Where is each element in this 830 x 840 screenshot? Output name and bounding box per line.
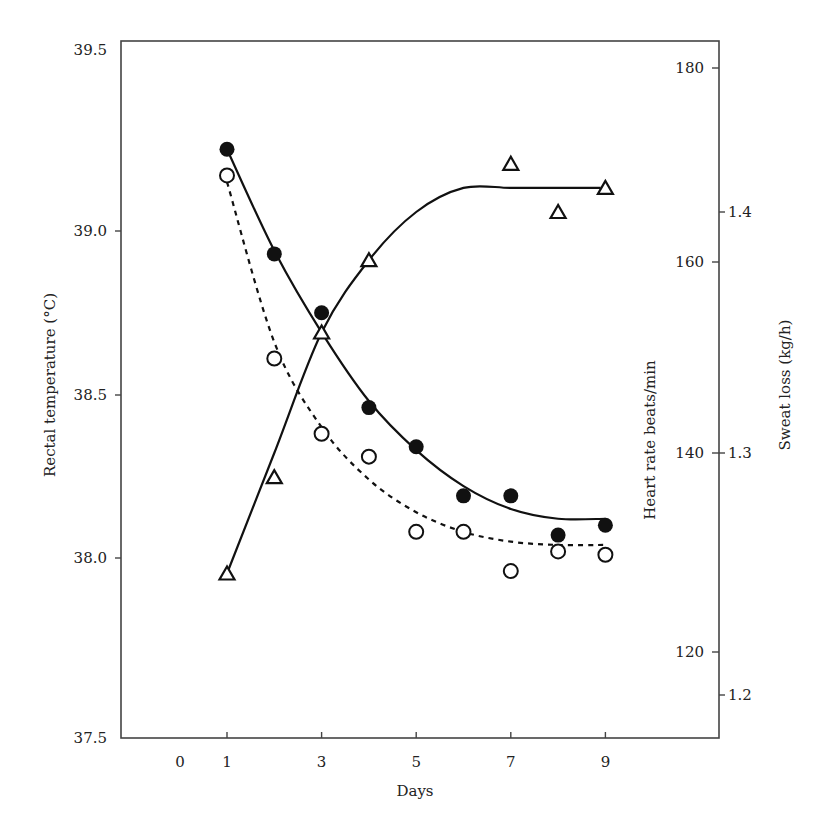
y-sweat-loss-tick-label: 1.3 bbox=[728, 444, 752, 462]
open-circle-marker bbox=[598, 548, 612, 562]
y-axis-right-heart-rate-title: Heart rate beats/min bbox=[641, 360, 659, 520]
filled-circle-marker bbox=[361, 400, 376, 415]
open-circle-marker bbox=[409, 525, 423, 539]
x-tick-label: 5 bbox=[411, 753, 421, 771]
x-tick-label: 3 bbox=[317, 753, 327, 771]
open-triangle-marker bbox=[267, 470, 282, 483]
filled-circle-fit-curve bbox=[227, 149, 605, 519]
y-left-tick-label: 37.5 bbox=[74, 729, 107, 747]
y-sweat-loss-tick-label: 1.4 bbox=[728, 203, 752, 221]
open-triangle-marker bbox=[551, 205, 566, 218]
y-left-tick-label: 39.5 bbox=[74, 41, 107, 59]
x-tick-label: 0 bbox=[175, 753, 185, 771]
open-circle-marker bbox=[267, 352, 281, 366]
open-triangle-marker bbox=[314, 326, 329, 339]
y-heart-rate-tick-label: 120 bbox=[675, 643, 704, 661]
fitted-curves bbox=[227, 149, 605, 573]
open-circle-marker bbox=[315, 427, 329, 441]
open-triangle-marker bbox=[503, 157, 518, 170]
y-axis-left-title: Rectal temperature (°C) bbox=[41, 293, 59, 477]
open-circle-marker bbox=[504, 564, 518, 578]
filled-circle-marker bbox=[551, 528, 566, 543]
y-heart-rate-tick-label: 180 bbox=[675, 59, 704, 77]
open-circle-marker bbox=[220, 168, 234, 182]
y-sweat-loss-tick-label: 1.2 bbox=[728, 686, 752, 704]
open-circle-marker bbox=[551, 544, 565, 558]
filled-circle-marker bbox=[220, 142, 235, 157]
y-axis-right-sweat-loss-title: Sweat loss (kg/h) bbox=[776, 320, 794, 451]
x-tick-label: 7 bbox=[506, 753, 516, 771]
filled-circle-marker bbox=[267, 246, 282, 261]
y-heart-rate-tick-label: 140 bbox=[675, 444, 704, 462]
filled-circle-marker bbox=[314, 305, 329, 320]
axis-ticks bbox=[115, 68, 725, 738]
open-triangle-marker bbox=[220, 567, 235, 580]
y-left-tick-label: 39.0 bbox=[74, 222, 107, 240]
open-circle-fit-curve bbox=[227, 182, 605, 545]
x-tick-label: 9 bbox=[601, 753, 611, 771]
triangle-fit-curve bbox=[227, 186, 601, 573]
x-axis-title: Days bbox=[396, 782, 433, 800]
filled-circle-marker bbox=[503, 488, 518, 503]
open-circle-marker bbox=[457, 525, 471, 539]
plot-frame bbox=[121, 41, 719, 738]
y-heart-rate-tick-label: 160 bbox=[675, 253, 704, 271]
y-left-tick-label: 38.0 bbox=[74, 549, 107, 567]
data-markers bbox=[220, 142, 613, 580]
open-circle-marker bbox=[362, 450, 376, 464]
x-tick-label: 1 bbox=[222, 753, 232, 771]
chart-figure: 01357937.538.038.539.039.51201401601801.… bbox=[0, 0, 830, 840]
filled-circle-marker bbox=[409, 439, 424, 454]
filled-circle-marker bbox=[598, 518, 613, 533]
filled-circle-marker bbox=[456, 488, 471, 503]
y-left-tick-label: 38.5 bbox=[74, 386, 107, 404]
